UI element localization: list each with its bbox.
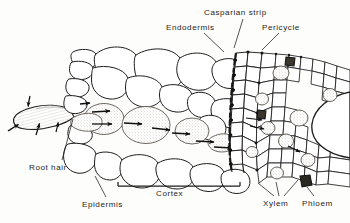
label-phloem: Phloem <box>302 199 333 208</box>
leader-pericycle <box>262 33 279 50</box>
leader-xylem-1 <box>258 183 274 196</box>
leader-xylem-3 <box>284 180 298 196</box>
label-casparian-strip: Casparian strip <box>204 8 267 17</box>
leader-phloem <box>307 187 314 196</box>
leader-xylem-2 <box>276 182 279 196</box>
label-pericycle: Pericycle <box>262 23 300 32</box>
leader-endodermis <box>204 33 224 52</box>
label-cortex: Cortex <box>156 189 183 198</box>
label-root-hair: Root hair <box>29 163 67 172</box>
label-xylem: Xylem <box>263 199 288 208</box>
label-endodermis: Endodermis <box>166 23 215 32</box>
leader-casparian <box>234 19 243 48</box>
label-epidermis: Epidermis <box>82 200 123 209</box>
root-cross-section-figure: Casparian strip Endodermis Pericycle Roo… <box>0 0 350 223</box>
